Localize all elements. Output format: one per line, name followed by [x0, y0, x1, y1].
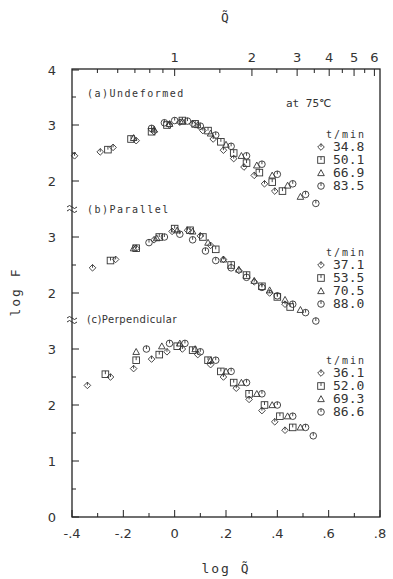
left-y-axis: 432323210 — [48, 63, 79, 525]
x-tick-label: 0 — [171, 526, 179, 541]
triangle-marker — [159, 343, 166, 349]
series-37.1 — [89, 227, 288, 308]
legend-panel-1: t/min37.153.570.588.0 — [318, 247, 366, 311]
x-tick-label: .6 — [322, 526, 334, 541]
top-tick-label: 5 — [350, 50, 358, 65]
top-tick-label: 6 — [370, 50, 378, 65]
y-tick-label: 3 — [48, 118, 56, 133]
series-36.1 — [84, 346, 288, 434]
y-tick-label: 2 — [48, 398, 56, 413]
legend-value: 86.6 — [333, 404, 364, 419]
top-tick-label: 1 — [171, 50, 179, 65]
x-tick-label: -.4 — [63, 526, 80, 541]
data-series — [71, 117, 319, 439]
panel-0 — [71, 117, 319, 206]
scatter-chart: -.4-.20.2.4.6.8 123456 432323210 Q̃ log … — [0, 0, 393, 579]
y-tick-label: 0 — [48, 510, 56, 525]
triangle-marker — [133, 349, 140, 355]
y-tick-label: 3 — [48, 230, 56, 245]
top-tick-label: 3 — [293, 50, 301, 65]
x-tick-label: .2 — [220, 526, 232, 541]
panel-label-perpendicular: (c)Perpendicular — [87, 314, 177, 325]
panel-1 — [89, 225, 319, 324]
x-tick-label: .8 — [374, 526, 386, 541]
y-tick-label: 2 — [48, 174, 56, 189]
y-tick-label: 2 — [48, 286, 56, 301]
legend-value: 83.5 — [333, 178, 364, 193]
temperature-annotation: at 75℃ — [286, 97, 331, 110]
top-x-axis: 123456 — [97, 50, 378, 76]
top-tick-label: 4 — [325, 50, 333, 65]
panel-label-undeformed: (a)Undeformed — [87, 88, 185, 99]
y-tick-label: 4 — [48, 63, 56, 78]
y-axis-title: log F — [8, 267, 23, 316]
y-tick-label: 1 — [48, 454, 56, 469]
top-axis-title: Q̃ — [221, 10, 231, 25]
legend-panel-2: t/min36.152.069.386.6 — [318, 355, 366, 419]
y-tick-label: 3 — [48, 342, 56, 357]
top-tick-label: 2 — [248, 50, 256, 65]
x-tick-label: -.2 — [115, 526, 132, 541]
series-34.8 — [71, 119, 278, 194]
series-50.1 — [105, 117, 286, 194]
triangle-marker — [318, 170, 325, 176]
legend-value: 88.0 — [333, 296, 364, 311]
series-69.3 — [133, 340, 304, 430]
triangle-marker — [318, 288, 325, 294]
series-66.9 — [130, 118, 303, 199]
bottom-axis-title: log Q̃ — [201, 561, 250, 576]
legends: t/min34.850.166.983.5t/min37.153.570.588… — [318, 129, 366, 419]
series-53.5 — [107, 225, 293, 310]
legend-panel-0: t/min34.850.166.983.5 — [318, 129, 366, 193]
x-tick-label: .4 — [271, 526, 283, 541]
panel-2 — [84, 340, 316, 439]
triangle-marker — [318, 396, 325, 402]
panel-label-parallel: (b)Parallel — [87, 204, 170, 215]
